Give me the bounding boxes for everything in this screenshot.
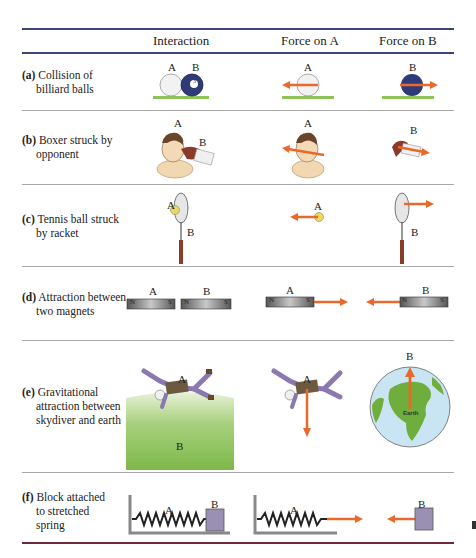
force-b-label: B	[418, 498, 425, 510]
row-label-c: (c) Tennis ball struck by racket	[22, 212, 119, 240]
row-label-e: (e) Gravitational attraction between sky…	[22, 385, 121, 427]
row-divider	[22, 472, 454, 473]
label-a: A	[149, 285, 157, 297]
force-b-label: B	[406, 350, 413, 362]
row-divider	[22, 110, 454, 111]
force-a-label: A	[286, 284, 294, 296]
force-a-label: A	[290, 504, 298, 516]
pole-n: N	[184, 298, 189, 306]
header-rule	[22, 52, 454, 54]
force-b-label: B	[422, 284, 429, 296]
table-top-rule	[22, 28, 454, 30]
row-divider	[22, 340, 454, 341]
page-edge-mark	[472, 521, 476, 529]
force-a-label: A	[303, 373, 311, 385]
force-b-label: B	[411, 226, 418, 238]
force-on-a-tennis-ball	[288, 210, 328, 224]
boxer-illustration	[155, 125, 225, 180]
pole-n: N	[402, 296, 407, 304]
force-on-a-ball	[280, 72, 340, 102]
billiard-balls-illustration	[150, 72, 230, 102]
header-interaction: Interaction	[153, 33, 209, 49]
row-label-b: (b) Boxer struck by opponent	[22, 133, 112, 161]
pole-n: N	[130, 298, 135, 306]
pole-s: S	[440, 296, 444, 304]
label-b: B	[187, 226, 194, 238]
earth-globe-illustration	[368, 365, 452, 449]
force-on-b-glove	[388, 137, 438, 167]
header-force-on-b: Force on B	[379, 33, 437, 49]
row-label-a: (a) Collision of billiard balls	[22, 68, 94, 96]
pole-s: S	[224, 298, 228, 306]
force-on-b-block	[383, 508, 443, 538]
label-b: B	[176, 440, 183, 452]
force-on-b-ball	[380, 72, 440, 102]
row-label-f: (f) Block attached to stretched spring	[22, 490, 105, 532]
header-force-on-a: Force on A	[281, 33, 339, 49]
force-on-a-boxer	[280, 125, 350, 180]
ball-number: 3	[193, 78, 196, 84]
row-label-d: (d) Attraction between two magnets	[22, 290, 126, 318]
pole-s: S	[306, 296, 310, 304]
magnets-illustration	[127, 299, 237, 311]
label-b: B	[211, 498, 218, 510]
table-bottom-rule	[22, 542, 454, 544]
force-b-label: B	[410, 124, 417, 136]
label-a: A	[165, 504, 173, 516]
row-divider	[22, 184, 454, 185]
force-on-a-spring	[253, 495, 373, 537]
earth-label: Earth	[403, 410, 418, 416]
label-a: A	[167, 199, 175, 211]
pole-s: S	[168, 298, 172, 306]
row-divider	[22, 266, 454, 267]
pole-n: N	[269, 296, 274, 304]
label-a: A	[178, 373, 186, 385]
label-b: B	[203, 285, 210, 297]
